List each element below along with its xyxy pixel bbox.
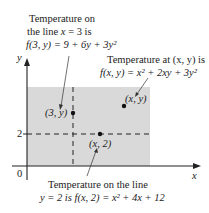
y-tick-label: 2	[17, 128, 22, 141]
point-label-3-y: (3, y)	[45, 107, 67, 120]
annotation-vertical-line-formula: f(3, y) = 9 + 6y + 3y²	[26, 39, 116, 52]
origin-label: 0	[17, 168, 22, 181]
annotation-horizontal-formula: y = 2 is f(x, 2) = x² + 4x + 12	[40, 192, 165, 205]
x-axis-label: x	[192, 170, 197, 183]
point-x-2	[98, 132, 102, 136]
point-label-x-2: (x, 2)	[89, 138, 111, 151]
point-3-y	[71, 111, 75, 115]
text: = 3 is	[66, 26, 92, 37]
annotation-vertical-line-subtitle: the line x = 3 is	[27, 26, 92, 39]
annotation-vertical-line-title: Temperature on	[29, 13, 95, 26]
annotation-general-title: Temperature at (x, y) is	[107, 54, 205, 67]
x-axis-arrow-icon	[193, 163, 201, 169]
annotation-horizontal-title: Temperature on the line	[48, 179, 148, 192]
y-axis-arrow-icon	[24, 58, 30, 66]
point-label-x-y: (x, y)	[125, 93, 147, 106]
y-axis-label: y	[17, 52, 22, 65]
annotation-general-formula: f(x, y) = x² + 2xy + 3y²	[100, 67, 197, 80]
text: the line	[27, 26, 61, 37]
